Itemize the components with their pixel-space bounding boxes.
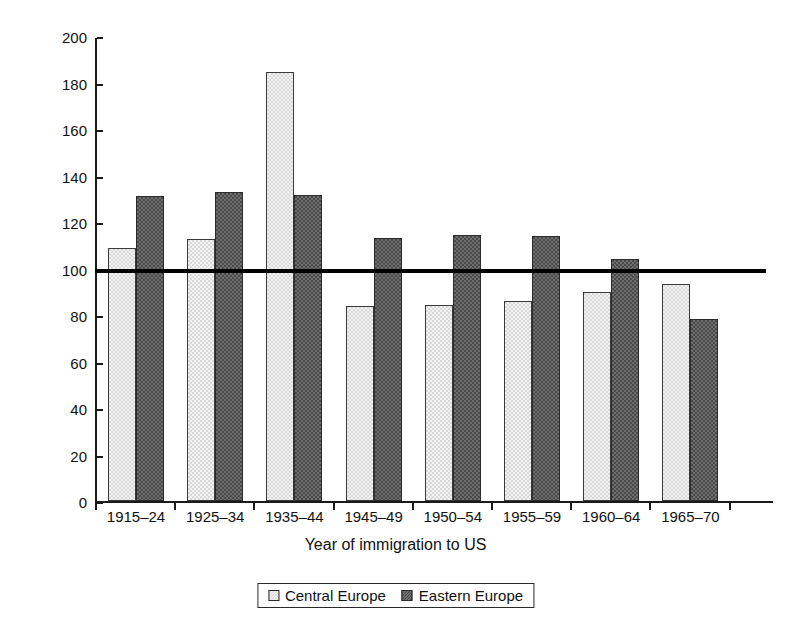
- x-tick-label: 1950–54: [408, 508, 498, 525]
- y-tick-label: 40: [70, 404, 87, 416]
- x-axis-line: [95, 501, 773, 503]
- x-tick-label: 1955–59: [487, 508, 577, 525]
- bar-central-europe: [583, 292, 611, 501]
- y-axis-title: Percent: [0, 141, 3, 341]
- reference-line-100: [95, 269, 766, 273]
- bar-eastern-europe: [690, 319, 718, 502]
- central-europe-swatch-icon: [268, 590, 279, 601]
- x-axis-title: Year of immigration to US: [0, 536, 791, 554]
- x-tick-label: 1960–64: [566, 508, 656, 525]
- legend-label-central-europe: Central Europe: [285, 587, 386, 604]
- x-axis-category-labels: 1915–241925–341935–441945–491950–541955–…: [95, 508, 771, 532]
- eastern-europe-swatch-icon: [402, 590, 413, 601]
- y-tick-label: 180: [62, 79, 87, 91]
- legend-item-eastern-europe: Eastern Europe: [402, 587, 523, 604]
- bar-eastern-europe: [532, 236, 560, 501]
- y-tick-label: 200: [62, 32, 87, 44]
- bar-central-europe: [108, 248, 136, 501]
- y-tick-label: 100: [62, 265, 87, 277]
- legend-item-central-europe: Central Europe: [268, 587, 386, 604]
- bar-eastern-europe: [611, 259, 639, 501]
- bar-central-europe: [187, 239, 215, 501]
- bar-eastern-europe: [453, 235, 481, 501]
- bar-central-europe: [425, 305, 453, 501]
- bar-eastern-europe: [136, 196, 164, 501]
- y-tick-label: 160: [62, 125, 87, 137]
- plot-area: 020406080100120140160180200: [95, 38, 771, 503]
- bar-eastern-europe: [294, 195, 322, 501]
- y-tick-label: 140: [62, 172, 87, 184]
- x-tick-label: 1965–70: [645, 508, 735, 525]
- x-tick-label: 1915–24: [91, 508, 181, 525]
- bar-eastern-europe: [374, 238, 402, 501]
- y-tick-label: 120: [62, 218, 87, 230]
- y-tick-label: 0: [79, 497, 87, 509]
- y-tick-mark: [97, 502, 103, 504]
- x-tick-label: 1925–34: [170, 508, 260, 525]
- bar-central-europe: [504, 301, 532, 501]
- y-tick-label: 60: [70, 358, 87, 370]
- bar-eastern-europe: [215, 192, 243, 501]
- y-tick-label: 80: [70, 311, 87, 323]
- bar-central-europe: [346, 306, 374, 501]
- bar-central-europe: [662, 284, 690, 501]
- chart-legend: Central Europe Eastern Europe: [257, 583, 534, 608]
- y-tick-label: 20: [70, 451, 87, 463]
- x-tick-label: 1935–44: [249, 508, 339, 525]
- y-axis-tick-labels: 020406080100120140160180200: [87, 38, 95, 503]
- bar-central-europe: [266, 72, 294, 501]
- legend-label-eastern-europe: Eastern Europe: [419, 587, 523, 604]
- x-tick-label: 1945–49: [329, 508, 419, 525]
- chart-figure: 020406080100120140160180200 Percent 1915…: [0, 0, 791, 636]
